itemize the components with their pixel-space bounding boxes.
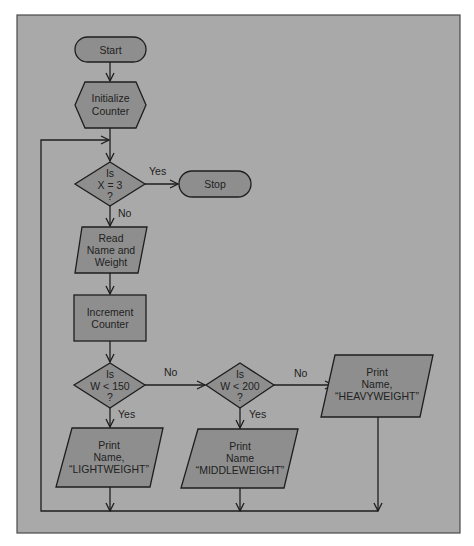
node-print-middleweight: Print Name “MIDDLEWEIGHT” — [181, 429, 298, 488]
node-stop-label: Stop — [204, 178, 226, 190]
node-start: Start — [75, 37, 146, 62]
node-start-label: Start — [99, 44, 121, 56]
node-middle-line-3: “MIDDLEWEIGHT” — [196, 464, 285, 476]
node-increment-line-2: Counter — [91, 318, 129, 330]
node-check200-line-2: W < 200 — [220, 380, 260, 392]
node-print-lightweight: Print Name, “LIGHTWEIGHT” — [56, 428, 163, 487]
node-light-line-1: Print — [98, 439, 120, 451]
node-print-heavyweight: Print Name, “HEAVYWEIGHT” — [321, 355, 433, 417]
node-heavy-line-2: Name, — [362, 378, 393, 390]
edge-label-w150-no: No — [164, 366, 178, 378]
node-checkx-line-3: ? — [107, 190, 113, 202]
edge-label-x-no: No — [118, 207, 132, 219]
edge-label-w150-yes: Yes — [118, 408, 135, 420]
edge-label-w200-no: No — [294, 367, 308, 379]
edge-label-w200-yes: Yes — [249, 408, 266, 420]
node-init-line-2: Counter — [92, 105, 130, 117]
node-heavy-line-1: Print — [366, 366, 388, 378]
node-increment-line-1: Increment — [87, 306, 134, 318]
node-check200-line-1: Is — [236, 368, 244, 380]
node-initialize-counter: Initialize Counter — [75, 82, 146, 128]
node-light-line-2: Name, — [94, 451, 125, 463]
node-read-name-weight: Read Name and Weight — [75, 227, 147, 273]
node-init-line-1: Initialize — [92, 92, 130, 104]
node-increment-counter: Increment Counter — [74, 295, 146, 341]
node-checkx-line-1: Is — [106, 167, 114, 179]
node-check150-line-3: ? — [107, 391, 113, 403]
node-checkx-line-2: X = 3 — [98, 179, 123, 191]
node-read-line-2: Name and — [87, 244, 136, 256]
node-check150-line-2: W < 150 — [90, 380, 130, 392]
edge-label-x-yes: Yes — [149, 165, 166, 177]
node-heavy-line-3: “HEAVYWEIGHT” — [335, 390, 419, 402]
node-check150-line-1: Is — [106, 368, 114, 380]
node-light-line-3: “LIGHTWEIGHT” — [69, 463, 149, 475]
node-read-line-3: Weight — [95, 256, 128, 268]
node-stop: Stop — [179, 171, 251, 197]
node-read-line-1: Read — [98, 232, 123, 244]
node-middle-line-2: Name — [226, 452, 254, 464]
node-check200-line-3: ? — [237, 391, 243, 403]
flowchart-canvas: Start Initialize Counter Is X = 3 ? Stop… — [0, 0, 474, 546]
node-middle-line-1: Print — [229, 440, 251, 452]
